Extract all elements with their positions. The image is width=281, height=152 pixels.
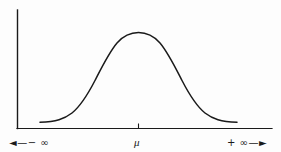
normal-density-curve	[40, 33, 237, 123]
x-axis-label-mu: μ	[134, 137, 140, 148]
right-arrow-icon: —►	[248, 137, 267, 148]
x-axis-label-negative-infinity: ◄—− ∞	[9, 137, 49, 148]
x-axis-label-positive-infinity: + ∞—►	[227, 137, 267, 148]
left-arrow-icon: ◄—	[9, 137, 28, 148]
negative-infinity-text: − ∞	[28, 137, 49, 148]
bell-curve-plot	[0, 0, 281, 152]
positive-infinity-text: + ∞	[227, 137, 248, 148]
normal-distribution-figure: ◄—− ∞ μ + ∞—►	[0, 0, 281, 152]
